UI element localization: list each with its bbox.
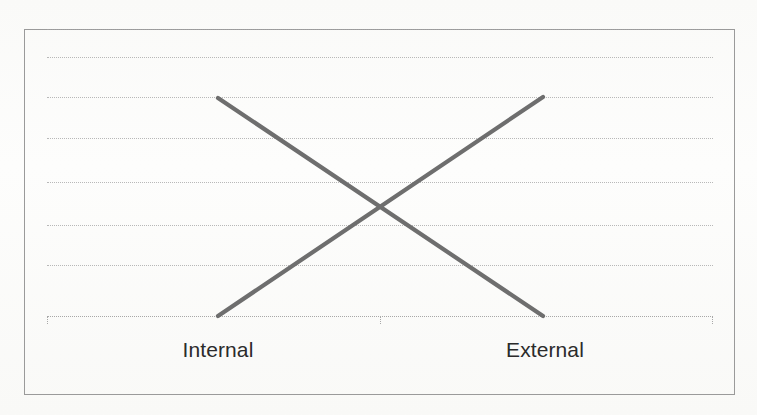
gridline — [47, 57, 713, 58]
gridline — [47, 29, 713, 30]
axis-tick-left — [47, 317, 48, 324]
gridline — [47, 225, 713, 226]
gridline — [47, 138, 713, 139]
plot-area — [47, 29, 713, 316]
gridline — [47, 265, 713, 266]
category-label-internal: Internal — [183, 338, 254, 362]
axis-tick-right — [712, 317, 713, 324]
x-axis — [47, 316, 713, 317]
gridline — [47, 97, 713, 98]
gridline — [47, 182, 713, 183]
category-label-external: External — [506, 338, 584, 362]
chart-page: Internal External — [0, 0, 757, 415]
axis-tick-center — [380, 317, 381, 324]
